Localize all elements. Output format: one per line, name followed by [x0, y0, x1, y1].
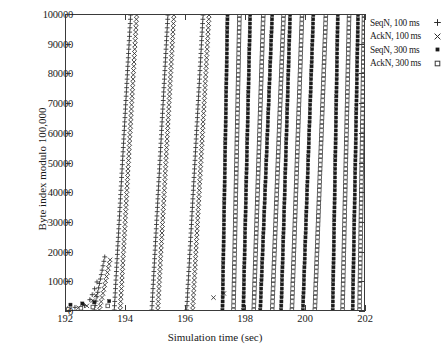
x-tick-label: 198: [237, 313, 253, 324]
y-tick-mark-right: [359, 192, 365, 193]
y-tick-mark-right: [359, 73, 365, 74]
y-tick-mark: [65, 44, 71, 45]
x-tick-mark: [365, 305, 366, 311]
x-tick-mark: [305, 305, 306, 311]
x-tick-mark: [185, 305, 186, 311]
y-tick-mark-right: [359, 281, 365, 282]
y-tick-mark-right: [359, 163, 365, 164]
y-tick-mark-right: [359, 103, 365, 104]
x-tick-label: 196: [177, 313, 193, 324]
legend-item-0: SeqN, 100 ms: [370, 16, 442, 30]
x-tick-mark: [125, 305, 126, 311]
y-tick-mark: [65, 252, 71, 253]
y-tick-mark: [65, 222, 71, 223]
legend-item-label: AckN, 100 ms: [370, 31, 421, 41]
legend-item-1: AckN, 100 ms: [370, 30, 442, 44]
x-tick-label: 194: [117, 313, 133, 324]
y-axis-label: Byte index modulo 100,000: [36, 49, 48, 289]
data-canvas: [66, 15, 364, 310]
open-square-icon: [432, 57, 442, 71]
y-tick-mark: [65, 192, 71, 193]
y-tick-mark: [65, 133, 71, 134]
plus-icon: [432, 16, 442, 30]
y-tick-mark: [65, 281, 71, 282]
legend-item-label: AckN, 300 ms: [370, 58, 421, 68]
x-tick-mark-top: [365, 14, 366, 20]
x-tick-mark-top: [65, 14, 66, 20]
plot-area: [65, 14, 365, 311]
figure: 0100002000030000400005000060000700008000…: [0, 0, 442, 359]
y-tick-mark-right: [359, 133, 365, 134]
x-tick-mark-top: [185, 14, 186, 20]
x-tick-mark-top: [245, 14, 246, 20]
legend-item-2: SeqN, 300 ms: [370, 43, 442, 57]
y-tick-mark-right: [359, 222, 365, 223]
legend-item-label: SeqN, 300 ms: [370, 45, 419, 55]
x-axis-label: Simulation time (sec): [65, 331, 365, 343]
x-tick-mark-top: [125, 14, 126, 20]
x-tick-label: 202: [357, 313, 373, 324]
legend-item-3: AckN, 300 ms: [370, 57, 442, 71]
legend-item-label: SeqN, 100 ms: [370, 18, 419, 28]
y-tick-mark-right: [359, 311, 365, 312]
x-tick-mark: [245, 305, 246, 311]
y-tick-mark: [65, 73, 71, 74]
y-tick-mark: [65, 163, 71, 164]
x-tick-mark-top: [305, 14, 306, 20]
x-tick-label: 200: [297, 313, 313, 324]
y-tick-mark: [65, 311, 71, 312]
y-tick-mark-right: [359, 44, 365, 45]
series-ackn-100-ms: [67, 15, 226, 310]
cross-icon: [432, 30, 442, 44]
x-tick-mark: [65, 305, 66, 311]
y-tick-mark: [65, 103, 71, 104]
y-tick-mark-right: [359, 252, 365, 253]
filled-square-icon: [432, 43, 442, 57]
legend: SeqN, 100 msAckN, 100 msSeqN, 300 msAckN…: [370, 16, 442, 70]
x-tick-label: 192: [57, 313, 73, 324]
